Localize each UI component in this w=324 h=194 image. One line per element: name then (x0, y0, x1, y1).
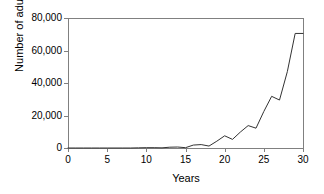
plot-box-border (68, 18, 303, 148)
data-series-line (68, 33, 303, 148)
x-axis-title: Years (68, 172, 304, 184)
plot-area (0, 0, 324, 194)
tick-marks (64, 19, 304, 153)
chart-figure: Number of adults 020,00040,00060,00080,0… (0, 0, 324, 194)
data-series-group (68, 33, 303, 148)
axis-frame (68, 18, 303, 148)
